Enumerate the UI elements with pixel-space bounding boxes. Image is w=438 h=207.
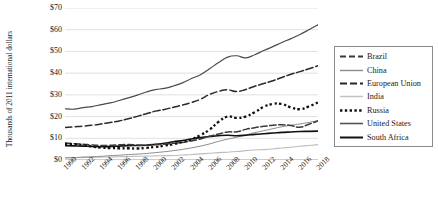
legend-item-european-union[interactable]: European Union xyxy=(335,77,432,90)
y-tick-label: $20 xyxy=(50,113,62,121)
y-tick-label: $30 xyxy=(50,91,62,99)
legend-item-label: China xyxy=(367,66,387,75)
legend-item-label: South Africa xyxy=(367,133,409,142)
chart-svg xyxy=(65,8,318,160)
chart-legend: BrazilChinaEuropean UnionIndiaRussiaUnit… xyxy=(334,46,433,147)
legend-item-china[interactable]: China xyxy=(335,63,432,76)
legend-line-swatch xyxy=(339,119,364,128)
legend-item-russia[interactable]: Russia xyxy=(335,104,432,117)
legend-line-swatch xyxy=(339,106,364,115)
y-tick-label: $10 xyxy=(50,134,62,142)
plot-area xyxy=(65,8,318,160)
series-line-european-union xyxy=(65,66,318,128)
legend-item-label: Russia xyxy=(367,106,389,115)
legend-item-brazil[interactable]: Brazil xyxy=(335,50,432,63)
series-line-united-states xyxy=(65,25,318,110)
x-axis-tick-labels: 1990199219941996199820002002200420062008… xyxy=(0,162,438,207)
y-axis-tick-labels: $70$60$50$40$30$20$10$0 xyxy=(34,0,62,170)
y-tick-label: $70 xyxy=(50,4,62,12)
legend-line-swatch xyxy=(339,52,364,61)
legend-item-label: India xyxy=(367,92,384,101)
y-axis-title-text: Thousands of 2011 international dollars xyxy=(5,31,14,147)
legend-line-swatch xyxy=(339,66,364,75)
chart-container: Thousands of 2011 international dollars … xyxy=(0,0,438,207)
legend-item-south-africa[interactable]: South Africa xyxy=(335,130,432,143)
legend-item-label: United States xyxy=(367,119,411,128)
legend-line-swatch xyxy=(339,133,364,142)
legend-item-label: European Union xyxy=(367,79,421,88)
legend-item-india[interactable]: India xyxy=(335,90,432,103)
legend-item-united-states[interactable]: United States xyxy=(335,117,432,130)
y-tick-label: $60 xyxy=(50,26,62,34)
legend-line-swatch xyxy=(339,92,364,101)
series-line-south-africa xyxy=(65,131,318,147)
y-tick-label: $40 xyxy=(50,69,62,77)
y-axis-title: Thousands of 2011 international dollars xyxy=(2,18,16,160)
legend-line-swatch xyxy=(339,79,364,88)
legend-item-label: Brazil xyxy=(367,52,387,61)
y-tick-label: $50 xyxy=(50,47,62,55)
